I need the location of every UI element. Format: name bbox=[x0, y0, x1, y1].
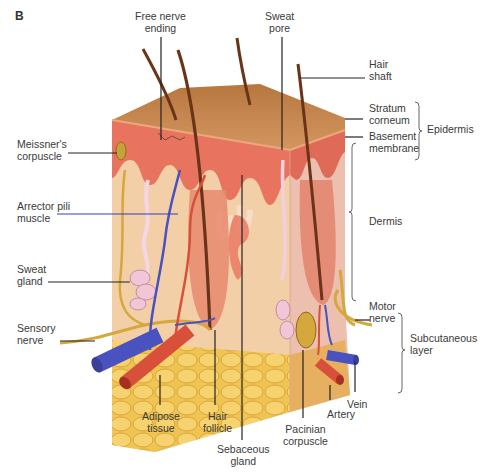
label-stratum-corneum: Stratum corneum bbox=[369, 102, 410, 126]
label-epidermis: Epidermis bbox=[427, 123, 474, 135]
label-hair-follicle: Hair follicle bbox=[203, 410, 232, 434]
label-motor-nerve: Motor nerve bbox=[369, 300, 396, 324]
label-vein: Vein bbox=[347, 398, 367, 410]
label-arrector-pili-muscle: Arrector pili muscle bbox=[17, 200, 70, 224]
label-adipose-tissue: Adipose tissue bbox=[142, 410, 180, 434]
label-meissners-corpuscle: Meissner's corpuscle bbox=[17, 138, 67, 162]
skin-diagram: B bbox=[0, 0, 493, 473]
skin-block bbox=[60, 38, 372, 452]
label-subcutaneous-layer: Subcutaneous layer bbox=[410, 332, 477, 356]
adipose-front bbox=[112, 340, 290, 452]
meissners-corpuscle-shape bbox=[116, 142, 126, 160]
label-dermis: Dermis bbox=[369, 215, 402, 227]
label-sweat-gland: Sweat gland bbox=[17, 263, 46, 287]
label-free-nerve-ending: Free nerve ending bbox=[135, 10, 186, 34]
pacinian-corpuscle-shape bbox=[296, 312, 316, 348]
label-hair-shaft: Hair shaft bbox=[369, 58, 392, 82]
label-basement-membrane: Basement membrane bbox=[369, 130, 419, 154]
label-sensory-nerve: Sensory nerve bbox=[17, 322, 56, 346]
label-sebaceous-gland: Sebaceous gland bbox=[217, 443, 270, 467]
label-pacinian-corpuscle: Pacinian corpuscle bbox=[283, 423, 328, 447]
label-sweat-pore: Sweat pore bbox=[265, 10, 294, 34]
